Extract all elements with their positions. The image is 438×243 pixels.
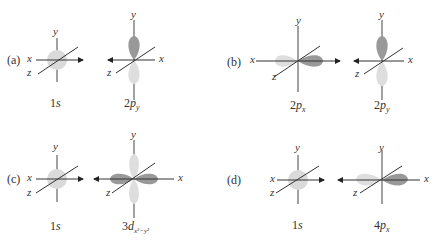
orbital-caption-c-right: 3dx²−y² bbox=[122, 219, 149, 235]
axis-x-label: x bbox=[178, 171, 183, 183]
axis-x-label: x bbox=[27, 171, 32, 183]
orbital-1s-a bbox=[36, 38, 83, 82]
orbital-caption-d-left: 1s bbox=[292, 218, 303, 233]
orbital-2py-a bbox=[108, 20, 155, 100]
orbital-2py-b bbox=[354, 20, 404, 100]
axis-x-label: x bbox=[250, 53, 255, 65]
orbital-2px-b bbox=[256, 26, 340, 92]
orbital-4px-d bbox=[338, 150, 420, 204]
axis-x-label: x bbox=[270, 172, 275, 184]
axis-y-label: y bbox=[295, 141, 300, 153]
orbital-caption-a-left: 1s bbox=[50, 96, 61, 111]
orbital-caption-b-right: 2py bbox=[374, 98, 390, 114]
orbital-1s-c bbox=[36, 155, 83, 202]
orbital-overlap-diagram bbox=[0, 0, 438, 243]
panel-label-b: (b) bbox=[227, 55, 241, 70]
axis-z-label: z bbox=[272, 70, 276, 82]
panel-label-d: (d) bbox=[227, 173, 241, 188]
panel-label-a: (a) bbox=[7, 53, 20, 68]
axis-z-label: z bbox=[353, 186, 357, 198]
orbital-3d-x2-y2-c bbox=[94, 140, 174, 218]
axis-y-label: y bbox=[379, 8, 384, 20]
axis-z-label: z bbox=[270, 186, 274, 198]
axis-x-label: x bbox=[408, 53, 413, 65]
orbital-caption-b-left: 2px bbox=[290, 98, 306, 114]
axis-y-label: y bbox=[131, 128, 136, 140]
panel-label-c: (c) bbox=[7, 172, 20, 187]
orbital-1s-d bbox=[276, 155, 324, 204]
axis-x-label: x bbox=[27, 52, 32, 64]
axis-z-label: z bbox=[355, 67, 359, 79]
axis-z-label: z bbox=[107, 66, 111, 78]
orbital-caption-a-right: 2py bbox=[124, 96, 140, 112]
axis-y-label: y bbox=[379, 141, 384, 153]
axis-y-label: y bbox=[296, 14, 301, 26]
axis-z-label: z bbox=[106, 186, 110, 198]
axis-y-label: y bbox=[131, 8, 136, 20]
axis-x-label: x bbox=[424, 172, 429, 184]
axis-y-label: y bbox=[53, 25, 58, 37]
axis-z-label: z bbox=[27, 66, 31, 78]
orbital-caption-c-left: 1s bbox=[50, 219, 61, 234]
axis-y-label: y bbox=[53, 140, 58, 152]
axis-z-label: z bbox=[27, 186, 31, 198]
axis-x-label: x bbox=[159, 52, 164, 64]
orbital-caption-d-right: 4px bbox=[374, 218, 390, 234]
